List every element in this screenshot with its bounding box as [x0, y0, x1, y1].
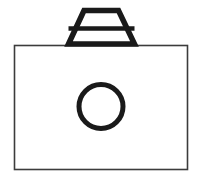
camera-lens-circle — [79, 85, 123, 129]
camera-icon — [0, 0, 200, 184]
camera-icon-canvas — [0, 0, 200, 184]
